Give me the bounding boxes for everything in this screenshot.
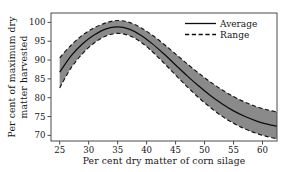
x-tick-label-50: 50	[199, 145, 210, 155]
x-tick-label-35: 35	[112, 145, 123, 155]
chart-figure: 2530354045505560 707580859095100 Per cen…	[0, 0, 286, 172]
y-axis-title-line1: Per cent of maximum dry	[6, 16, 17, 138]
y-tick-label-95: 95	[35, 36, 46, 46]
legend-average-label: Average	[219, 19, 257, 29]
x-tick-label-30: 30	[83, 145, 94, 155]
y-tick-label-80: 80	[35, 93, 46, 103]
x-tick-label-25: 25	[54, 145, 65, 155]
legend-range-label: Range	[220, 30, 249, 40]
x-tick-label-40: 40	[141, 145, 152, 155]
y-tick-label-90: 90	[35, 55, 46, 65]
y-axis-title-line2: matter harvested	[18, 36, 29, 119]
x-axis-title: Per cent dry matter of corn silage	[83, 155, 246, 166]
y-tick-label-70: 70	[35, 130, 46, 140]
x-tick-label-55: 55	[228, 145, 239, 155]
y-tick-label-85: 85	[35, 74, 46, 84]
x-tick-label-45: 45	[170, 145, 181, 155]
x-tick-label-60: 60	[257, 145, 268, 155]
y-tick-label-100: 100	[29, 17, 45, 27]
y-tick-label-75: 75	[35, 112, 46, 122]
corn-silage-chart: 2530354045505560 707580859095100 Per cen…	[0, 0, 286, 172]
